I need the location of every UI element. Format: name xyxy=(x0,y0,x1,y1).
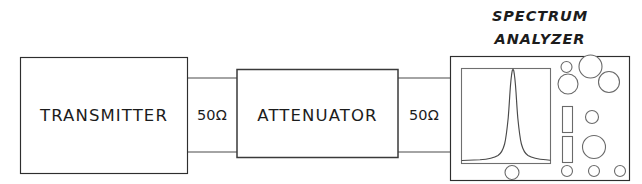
spectrum-analyzer-label-line2: ANALYZER xyxy=(494,31,586,47)
transmitter-label: TRANSMITTER xyxy=(39,106,168,125)
block-transmitter: TRANSMITTER xyxy=(21,58,188,174)
block-attenuator: ATTENUATOR xyxy=(237,70,398,158)
control-slider-1[interactable] xyxy=(563,107,573,133)
control-knob-5[interactable] xyxy=(586,111,599,124)
instrument-spectrum-analyzer: SPECTRUM ANALYZER xyxy=(451,8,630,181)
control-knob-4[interactable] xyxy=(599,72,620,93)
control-knob-7[interactable] xyxy=(562,166,573,177)
crt-display xyxy=(462,69,551,164)
attenuator-label: ATTENUATOR xyxy=(257,106,377,125)
block-diagram-canvas: TRANSMITTER 50Ω ATTENUATOR 50Ω SPECTRUM … xyxy=(0,0,642,184)
spectrum-analyzer-label-line1: SPECTRUM xyxy=(492,8,588,24)
display-position-knob[interactable] xyxy=(505,166,519,180)
control-knob-1[interactable] xyxy=(561,62,572,73)
block-diagram-svg: TRANSMITTER 50Ω ATTENUATOR 50Ω SPECTRUM … xyxy=(0,0,642,184)
control-knob-6[interactable] xyxy=(583,136,606,159)
control-knob-9[interactable] xyxy=(615,166,626,177)
control-knob-8[interactable] xyxy=(589,166,600,177)
impedance-label-1: 50Ω xyxy=(197,107,227,123)
impedance-label-2: 50Ω xyxy=(409,107,439,123)
control-knob-3[interactable] xyxy=(558,74,578,94)
control-slider-2[interactable] xyxy=(563,137,573,163)
control-knob-2[interactable] xyxy=(579,55,602,78)
